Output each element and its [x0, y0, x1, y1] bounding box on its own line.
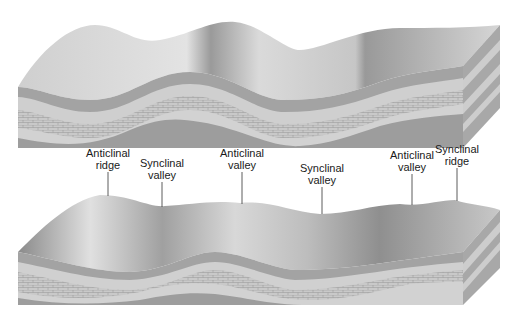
label-line: valley	[140, 169, 184, 181]
label-line: Synclinal	[140, 157, 184, 169]
label-anticlinal-valley-2: Anticlinal valley	[390, 149, 434, 173]
label-synclinal-valley-1: Synclinal valley	[140, 157, 184, 181]
label-line: Synclinal	[435, 143, 479, 155]
label-line: valley	[390, 161, 434, 173]
label-synclinal-ridge: Synclinal ridge	[435, 143, 479, 167]
label-line: ridge	[435, 155, 479, 167]
label-line: Anticlinal	[390, 149, 434, 161]
label-line: ridge	[86, 159, 130, 171]
label-synclinal-valley-2: Synclinal valley	[300, 162, 344, 186]
label-anticlinal-ridge: Anticlinal ridge	[86, 147, 130, 171]
label-line: Synclinal	[300, 162, 344, 174]
top-block	[18, 22, 500, 148]
label-line: Anticlinal	[86, 147, 130, 159]
label-line: Anticlinal	[220, 147, 264, 159]
bottom-block	[18, 168, 500, 305]
label-line: valley	[300, 174, 344, 186]
label-line: valley	[220, 159, 264, 171]
label-anticlinal-valley-1: Anticlinal valley	[220, 147, 264, 171]
